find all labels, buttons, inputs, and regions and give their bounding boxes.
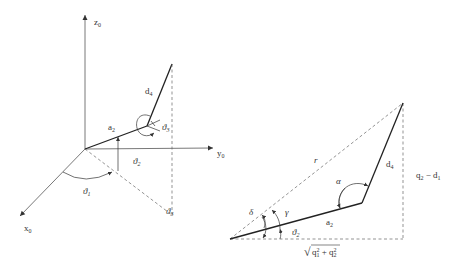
svg-text:√: √ — [304, 245, 311, 259]
svg-text:q12 + q22: q12 + q22 — [312, 247, 337, 258]
figure-3d: z0 y0 x0 a2 d4 ϑ1 ϑ2 ϑ3 ϑ3 — [20, 15, 225, 234]
z0-label: z0 — [94, 17, 101, 28]
x0-label: x0 — [24, 223, 32, 234]
link-d4 — [362, 103, 403, 203]
x0-axis — [20, 149, 85, 216]
theta1-arc — [63, 172, 112, 179]
kinematics-diagram: z0 y0 x0 a2 d4 ϑ1 ϑ2 ϑ3 ϑ3 — [0, 0, 453, 268]
figure-planar: r α δ γ a2 d4 ϑ2 q2 − d1 √ q12 + q22 — [230, 103, 441, 259]
r-label: r — [314, 155, 318, 165]
r-line — [230, 103, 403, 239]
theta1-label: ϑ1 — [83, 186, 90, 197]
y0-label: y0 — [217, 148, 225, 159]
gamma-label: γ — [285, 207, 289, 217]
theta2-arc — [280, 229, 281, 239]
d4-label: d4 — [386, 159, 394, 170]
alpha-label: α — [336, 176, 341, 186]
projection-ground — [85, 149, 172, 215]
a2-label: a2 — [326, 217, 333, 228]
q2-minus-d1-label: q2 − d1 — [416, 170, 441, 181]
theta3-label: ϑ3 — [162, 122, 169, 133]
y0-axis — [85, 148, 213, 149]
a2-label: a2 — [108, 122, 115, 133]
theta3-ref-line-2 — [147, 126, 160, 131]
d4-label: d4 — [145, 86, 153, 97]
delta-label: δ — [249, 207, 254, 217]
theta2-label: ϑ2 — [292, 227, 299, 238]
alpha-arc — [339, 183, 368, 208]
theta2-label: ϑ2 — [133, 156, 140, 167]
sqrt-q1-q2-label: √ q12 + q22 — [304, 245, 340, 259]
theta3-arc — [137, 115, 154, 136]
